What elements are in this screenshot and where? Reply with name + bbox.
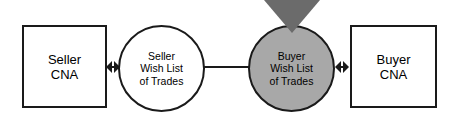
- connector-buyer-wish-to-buyer-cna: [335, 61, 349, 73]
- node-buyer-wish-list-line-2: Wish List: [270, 62, 313, 75]
- node-buyer-wish-list-line-3: of Trades: [270, 75, 314, 88]
- arrow-head-right-icon: [343, 61, 349, 73]
- node-buyer-cna-label: Buyer CNA: [377, 52, 411, 82]
- arrow-head-left-icon: [335, 61, 341, 73]
- node-buyer-wish-list-line-1: Buyer: [278, 50, 305, 63]
- down-triangle-marker-icon: [264, 0, 320, 33]
- node-seller-cna-label: Seller CNA: [48, 52, 81, 82]
- node-buyer-wish-list[interactable]: Buyer Wish List of Trades: [248, 25, 335, 112]
- diagram-canvas: Seller CNA Seller Wish List of Trades Bu…: [0, 0, 456, 120]
- node-seller-wish-list-line-3: of Trades: [140, 75, 184, 88]
- node-seller-wish-list[interactable]: Seller Wish List of Trades: [118, 25, 205, 112]
- node-seller-cna[interactable]: Seller CNA: [22, 25, 107, 108]
- node-seller-wish-list-line-2: Wish List: [140, 62, 183, 75]
- arrow-head-left-icon: [106, 61, 112, 73]
- node-buyer-cna[interactable]: Buyer CNA: [350, 25, 437, 108]
- connector-seller-wish-to-buyer-wish: [204, 66, 250, 68]
- node-seller-wish-list-line-1: Seller: [148, 50, 175, 63]
